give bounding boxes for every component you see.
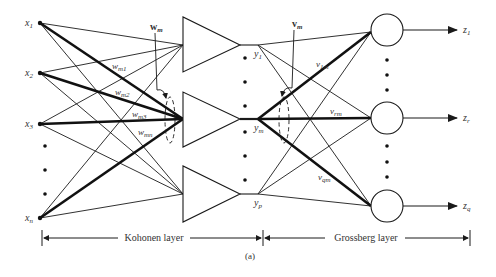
- winning-unit-output-weights: [258, 32, 371, 206]
- input-node-x3: [38, 122, 42, 126]
- ellipsis-dot: [43, 168, 47, 172]
- svg-text:x1: x1: [24, 17, 33, 30]
- input-node-x2: [38, 71, 42, 75]
- input-node-x1: [38, 21, 42, 25]
- grossberg-unit-r: [371, 102, 403, 134]
- svg-text:ym: ym: [253, 122, 264, 135]
- ellipsis-dot: [43, 144, 47, 148]
- grossberg-unit-1: [371, 14, 403, 46]
- svg-text:yp: yp: [253, 197, 262, 210]
- kohonen-output-labels: y1 ym yp: [253, 48, 264, 210]
- ellipsis-dot: [43, 192, 47, 196]
- winning-unit-weights: [40, 23, 183, 218]
- svg-text:z1: z1: [462, 24, 470, 37]
- kohonen-units: [183, 17, 240, 222]
- layer-span-indicators: [42, 230, 470, 246]
- svg-text:wm3: wm3: [132, 109, 147, 121]
- kohonen-unit-m: [183, 92, 240, 147]
- kohonen-grossberg-network-diagram: x1 x2 x3 xn wm1 wm2 wm3 wmn wm y1: [0, 0, 496, 277]
- svg-text:xn: xn: [24, 212, 33, 225]
- svg-text:wmn: wmn: [138, 127, 153, 139]
- grossberg-unit-q: [371, 190, 403, 222]
- input-node-xn: [38, 216, 42, 220]
- kohonen-output-stubs: [240, 45, 258, 194]
- svg-text:x2: x2: [24, 67, 33, 80]
- figure-caption: (a): [245, 251, 255, 261]
- svg-text:wm1: wm1: [112, 61, 127, 73]
- svg-text:x3: x3: [24, 118, 33, 131]
- svg-text:wm: wm: [150, 21, 163, 34]
- output-labels: z1 zr zq: [462, 24, 471, 213]
- kohonen-layer-label: Kohonen layer: [124, 232, 184, 243]
- kohonen-unit-p: [183, 166, 240, 222]
- kohonen-unit-1: [183, 17, 240, 72]
- svg-text:vrm: vrm: [330, 106, 342, 118]
- svg-text:zr: zr: [462, 112, 470, 125]
- svg-text:v1m: v1m: [316, 59, 329, 71]
- grossberg-units: [371, 14, 403, 222]
- grossberg-weight-labels: v1m vrm vqm vm: [292, 18, 342, 184]
- output-arrows: [403, 30, 457, 206]
- svg-text:y1: y1: [253, 48, 262, 61]
- grossberg-layer-label: Grossberg layer: [334, 232, 398, 243]
- input-labels: x1 x2 x3 xn: [24, 17, 33, 225]
- weight-vector-vm-annotation: [279, 30, 294, 143]
- svg-text:zq: zq: [462, 200, 471, 213]
- svg-text:vm: vm: [292, 18, 303, 31]
